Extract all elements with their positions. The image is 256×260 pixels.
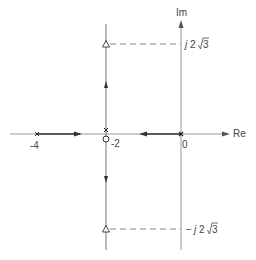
imag-num: 2 (199, 225, 205, 235)
imag-j: j (185, 40, 187, 50)
imag-num: 2 (190, 40, 196, 50)
imag-root: 3 (212, 225, 218, 235)
rightward-arrow-icon (74, 132, 82, 137)
upward-arrow-icon (104, 81, 108, 88)
leftward-arrow-icon (139, 132, 147, 137)
imag-axis-label: Im (176, 8, 187, 18)
real-axis-arrow-icon (222, 132, 230, 137)
imag-axis-arrow-icon (179, 20, 184, 28)
downward-arrow-icon (104, 176, 108, 183)
real-axis-label: Re (233, 129, 246, 139)
imag-root: 3 (203, 40, 209, 50)
triangle-marker-lower-icon (103, 226, 110, 233)
triangle-marker-upper-icon (103, 41, 110, 48)
tick-label-zero: 0 (182, 140, 188, 150)
imag-prefix: − (186, 225, 192, 235)
dashed-guides (110, 44, 181, 229)
root-locus-diagram (0, 0, 256, 260)
zero-circle-icon (103, 136, 109, 142)
imag-j: j (194, 225, 196, 235)
tick-label-minus-4: -4 (30, 141, 39, 151)
tick-label-minus-2: -2 (111, 139, 120, 149)
